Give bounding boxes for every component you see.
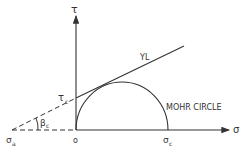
mohr-diagram: τ σ o YL MOHR CIRCLE τ c β c σ a σ c <box>0 0 241 150</box>
tau-axis-label: τ <box>71 3 78 16</box>
beta-c-subscript: c <box>46 122 49 129</box>
yield-line-label: YL <box>139 53 150 62</box>
mohr-circle-label: MOHR CIRCLE <box>166 103 222 112</box>
sigma-axis-label: σ <box>233 124 240 135</box>
mohr-circle <box>76 82 168 130</box>
tau-c-label: τ <box>58 92 64 103</box>
yield-line <box>76 46 184 98</box>
sigma-a-subscript: a <box>12 140 16 147</box>
tau-c-subscript: c <box>65 98 68 105</box>
sigma-c-subscript: c <box>169 140 172 147</box>
origin-label: o <box>73 136 78 145</box>
beta-angle-arc <box>36 118 38 130</box>
